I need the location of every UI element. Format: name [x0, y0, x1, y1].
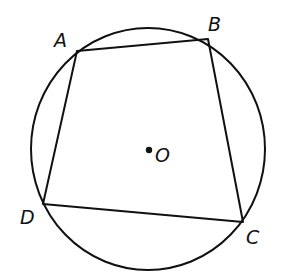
label-o: O: [155, 144, 170, 166]
label-d: D: [20, 206, 35, 228]
quadrilateral-abcd: [43, 39, 243, 222]
label-b: B: [208, 13, 221, 35]
label-a: A: [52, 29, 67, 51]
diagram-canvas: A B C D O: [0, 0, 286, 276]
label-c: C: [246, 226, 260, 248]
center-dot: [146, 147, 152, 153]
